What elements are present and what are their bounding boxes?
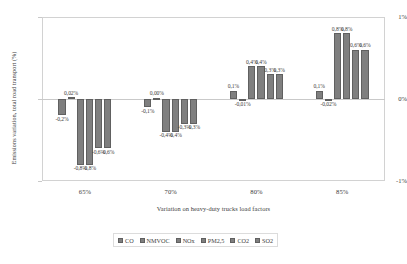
bar-group: -0,1%0,00%-0,4%-0,4%-0,3%-0,3%: [128, 17, 214, 181]
legend-swatch-icon: [176, 238, 181, 243]
bar: [104, 99, 111, 148]
legend-swatch-icon: [118, 238, 123, 243]
bar: [248, 66, 255, 99]
legend-label: NOx: [183, 237, 195, 244]
bar: [68, 97, 75, 99]
legend-item[interactable]: NMVOC: [140, 237, 170, 244]
bar: [77, 99, 84, 165]
bar: [153, 98, 160, 100]
bar: [181, 99, 188, 124]
bar: [58, 99, 65, 115]
legend-swatch-icon: [140, 238, 145, 243]
chart-legend: CONMVOCNOxPM2,5CO2SO2: [113, 233, 278, 247]
bar-value-label: 0,02%: [61, 90, 82, 97]
bar: [144, 99, 151, 107]
y-axis-title: Emissions variation, total road transpor…: [7, 20, 21, 196]
bar: [267, 74, 274, 99]
legend-label: PM2,5: [208, 237, 225, 244]
x-tick-label: 65%: [55, 188, 115, 195]
legend-item[interactable]: PM2,5: [201, 237, 225, 244]
bar-value-label: -0,02%: [318, 101, 339, 108]
legend-swatch-icon: [201, 238, 206, 243]
bar-value-label: -0,4%: [165, 132, 186, 139]
legend-item[interactable]: NOx: [176, 237, 195, 244]
legend-item[interactable]: CO2: [230, 237, 249, 244]
bar-value-label: -0,01%: [232, 101, 253, 108]
bar-value-label: 0,00%: [146, 90, 167, 97]
bar-value-label: 0,1%: [309, 83, 330, 90]
bar-value-label: 0,1%: [223, 83, 244, 90]
emissions-variation-bar-chart: Emissions variation, total road transpor…: [0, 0, 407, 264]
bar-value-label: 0,3%: [269, 67, 290, 74]
bar: [190, 99, 197, 124]
legend-label: SO2: [262, 237, 273, 244]
legend-swatch-icon: [255, 238, 260, 243]
bar: [276, 74, 283, 99]
bar-value-label: -0,6%: [97, 149, 118, 156]
bar-value-label: -0,1%: [137, 108, 158, 115]
bar-group: -0,2%0,02%-0,8%-0,8%-0,6%-0,6%: [42, 17, 128, 181]
x-tick-label: 80%: [226, 188, 286, 195]
x-axis-title: Variation on heavy-duty trucks load fact…: [42, 205, 385, 212]
legend-item[interactable]: CO: [118, 237, 134, 244]
legend-swatch-icon: [230, 238, 235, 243]
legend-item[interactable]: SO2: [255, 237, 273, 244]
bar-value-label: 0,6%: [354, 42, 375, 49]
legend-label: NMVOC: [147, 237, 170, 244]
bar-value-label: -0,2%: [51, 116, 72, 123]
bars-layer: -0,2%0,02%-0,8%-0,8%-0,6%-0,6%-0,1%0,00%…: [42, 17, 385, 181]
x-tick-label: 70%: [141, 188, 201, 195]
legend-label: CO2: [237, 237, 249, 244]
y-tickmark-neg1pct: [38, 181, 42, 182]
x-tick-label: 85%: [312, 188, 372, 195]
bar-value-label: -0,8%: [79, 165, 100, 172]
bar-group: 0,1%-0,02%0,8%0,8%0,6%0,6%: [299, 17, 385, 181]
bar: [316, 91, 323, 99]
bar-value-label: 0,8%: [336, 26, 357, 33]
bar: [230, 91, 237, 99]
legend-label: CO: [125, 237, 134, 244]
bar: [162, 99, 169, 132]
bar-group: 0,1%-0,01%0,4%0,4%0,3%0,3%: [214, 17, 300, 181]
bar: [352, 50, 359, 99]
bar: [95, 99, 102, 148]
bar: [334, 33, 341, 99]
bar: [361, 50, 368, 99]
bar-value-label: -0,3%: [183, 124, 204, 131]
bar-value-label: 0,4%: [250, 59, 271, 66]
